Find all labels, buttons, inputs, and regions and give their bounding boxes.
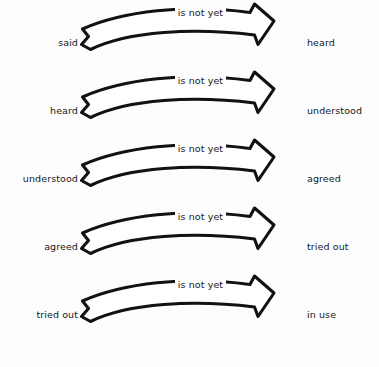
diagram-canvas: said is not yet heard heard is not yet u… [0, 0, 379, 367]
row-source-label: understood [23, 174, 78, 184]
row-target-label: understood [307, 106, 362, 116]
chain-row: understood is not yet agreed [0, 136, 379, 204]
row-source-label: heard [50, 106, 78, 116]
chain-row: heard is not yet understood [0, 68, 379, 136]
chain-row: tried out is not yet in use [0, 272, 379, 340]
curved-block-arrow [78, 68, 310, 136]
row-source-label: tried out [36, 310, 78, 320]
chain-row: said is not yet heard [0, 0, 379, 68]
row-target-label: heard [307, 38, 335, 48]
row-source-label: said [58, 38, 78, 48]
curved-block-arrow [78, 204, 310, 272]
row-target-label: in use [307, 310, 336, 320]
row-target-label: agreed [307, 174, 341, 184]
row-source-label: agreed [44, 242, 78, 252]
row-target-label: tried out [307, 242, 349, 252]
curved-block-arrow [78, 272, 310, 340]
curved-block-arrow [78, 136, 310, 204]
chain-row: agreed is not yet tried out [0, 204, 379, 272]
curved-block-arrow [78, 0, 310, 68]
